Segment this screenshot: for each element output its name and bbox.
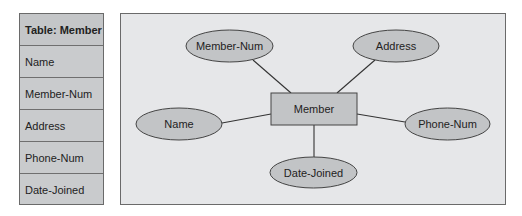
connector-address xyxy=(337,60,375,93)
label-phone-num: Phone-Num xyxy=(418,118,477,130)
connector-name xyxy=(222,114,271,123)
entity-label: Member xyxy=(294,103,335,115)
connector-member-num xyxy=(253,60,291,93)
connector-phone-num xyxy=(357,114,405,122)
label-address: Address xyxy=(376,40,417,52)
label-member-num: Member-Num xyxy=(196,40,263,52)
er-diagram: Member Member-Num Address Name Phone-Num… xyxy=(0,0,522,216)
label-name: Name xyxy=(164,118,193,130)
label-date-joined: Date-Joined xyxy=(284,167,343,179)
